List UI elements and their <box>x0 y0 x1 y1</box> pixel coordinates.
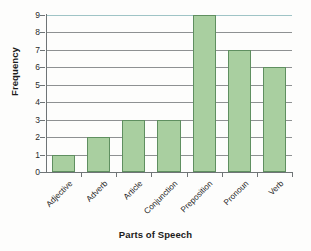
y-tick-label: 5 <box>26 80 40 90</box>
bar-slot <box>116 15 151 172</box>
y-tick-mark <box>40 15 45 16</box>
y-tick-label: 1 <box>26 150 40 160</box>
bar-pronoun[interactable] <box>228 50 251 172</box>
x-tick-label-pronoun: Pronoun <box>222 179 250 207</box>
bar-adjective[interactable] <box>52 155 75 172</box>
bar-slot <box>46 15 81 172</box>
y-tick-label: 4 <box>26 97 40 107</box>
y-axis-title: Frequency <box>9 27 20 117</box>
y-tick-mark <box>40 172 45 173</box>
bar-article[interactable] <box>122 120 145 172</box>
bar-slot <box>81 15 116 172</box>
y-tick-mark <box>40 102 45 103</box>
x-axis-title: Parts of Speech <box>0 229 311 240</box>
y-tick-mark <box>40 137 45 138</box>
y-tick-label: 3 <box>26 115 40 125</box>
x-tick-label-verb: Verb <box>267 179 285 197</box>
bar-slot <box>257 15 292 172</box>
bar-slot <box>222 15 257 172</box>
y-tick-mark <box>40 32 45 33</box>
bar-preposition[interactable] <box>193 15 216 172</box>
y-tick-label: 8 <box>26 27 40 37</box>
x-tick-label-preposition: Preposition <box>179 179 214 214</box>
x-tick-label-conjunction: Conjunction <box>143 179 180 216</box>
x-tick-label-adjective: Adjective <box>44 179 74 209</box>
bar-verb[interactable] <box>263 67 286 172</box>
y-tick-label: 2 <box>26 132 40 142</box>
bar-slot <box>187 15 222 172</box>
y-tick-label: 6 <box>26 62 40 72</box>
x-tick-mark <box>257 172 258 177</box>
bar-chart: Frequency 9876543210 Parts of Speech Adj… <box>0 0 311 251</box>
x-tick-label-article: Article <box>122 179 144 201</box>
y-axis-ticks: 9876543210 <box>22 0 40 251</box>
y-tick-mark <box>40 50 45 51</box>
y-tick-mark <box>40 155 45 156</box>
x-tick-mark <box>222 172 223 177</box>
y-tick-label: 0 <box>26 167 40 177</box>
y-tick-label: 9 <box>26 10 40 20</box>
bar-conjunction[interactable] <box>157 120 180 172</box>
x-tick-mark <box>116 172 117 177</box>
y-tick-label: 7 <box>26 45 40 55</box>
bar-adverb[interactable] <box>87 137 110 172</box>
bar-slot <box>151 15 186 172</box>
y-tick-mark <box>40 120 45 121</box>
y-tick-mark <box>40 67 45 68</box>
x-tick-mark <box>292 172 293 177</box>
x-tick-mark <box>187 172 188 177</box>
bars-layer <box>46 15 292 172</box>
x-tick-label-adverb: Adverb <box>85 179 110 204</box>
x-tick-mark <box>151 172 152 177</box>
x-tick-mark <box>81 172 82 177</box>
y-tick-mark <box>40 85 45 86</box>
